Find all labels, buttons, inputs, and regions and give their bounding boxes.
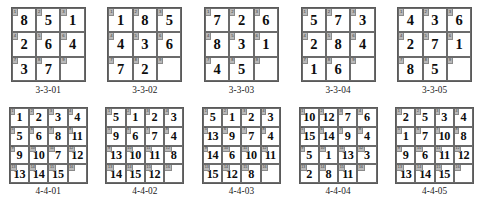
puzzle-tile[interactable]: 44: [108, 32, 132, 56]
puzzle-tile[interactable]: 15: [106, 108, 125, 127]
puzzle-tile[interactable]: 95: [300, 146, 319, 165]
puzzle-tile[interactable]: 61: [447, 32, 471, 56]
puzzle-cell-blank[interactable]: 16: [68, 164, 87, 183]
puzzle-tile[interactable]: 57: [423, 32, 447, 56]
puzzle-tile[interactable]: 148: [319, 164, 338, 183]
puzzle-tile[interactable]: 1110: [241, 146, 260, 165]
puzzle-tile[interactable]: 42: [302, 32, 326, 56]
puzzle-tile[interactable]: 85: [229, 57, 253, 81]
puzzle-tile[interactable]: 53: [133, 32, 157, 56]
puzzle-cell-blank[interactable]: 16: [454, 164, 473, 183]
puzzle-tile[interactable]: 84: [357, 127, 376, 146]
puzzle-tile[interactable]: 78: [398, 57, 422, 81]
puzzle-tile[interactable]: 51: [396, 127, 415, 146]
puzzle-tile[interactable]: 22: [29, 108, 48, 127]
puzzle-tile[interactable]: 110: [300, 108, 319, 127]
puzzle-tile[interactable]: 73: [12, 57, 36, 81]
puzzle-tile[interactable]: 74: [205, 57, 229, 81]
puzzle-tile[interactable]: 69: [222, 127, 241, 146]
puzzle-tile[interactable]: 515: [300, 127, 319, 146]
puzzle-tile[interactable]: 1412: [222, 164, 241, 183]
puzzle-tile[interactable]: 1511: [338, 164, 357, 183]
puzzle-tile[interactable]: 33: [48, 108, 67, 127]
puzzle-tile[interactable]: 1315: [203, 164, 222, 183]
puzzle-tile[interactable]: 79: [338, 127, 357, 146]
puzzle-tile[interactable]: 12: [396, 108, 415, 127]
puzzle-tile[interactable]: 35: [157, 8, 181, 32]
puzzle-tile[interactable]: 1212: [68, 146, 87, 165]
puzzle-tile[interactable]: 1313: [10, 164, 29, 183]
puzzle-tile[interactable]: 48: [205, 32, 229, 56]
puzzle-cell-blank[interactable]: 9: [157, 57, 181, 81]
puzzle-tile[interactable]: 86: [326, 57, 350, 81]
puzzle-cell-blank[interactable]: 9: [447, 57, 471, 81]
puzzle-tile[interactable]: 25: [36, 8, 60, 32]
puzzle-cell-blank[interactable]: 16: [261, 164, 280, 183]
puzzle-cell-blank[interactable]: 9: [60, 57, 84, 81]
puzzle-tile[interactable]: 106: [222, 146, 241, 165]
puzzle-tile[interactable]: 58: [326, 32, 350, 56]
puzzle-tile[interactable]: 43: [164, 108, 183, 127]
puzzle-cell-blank[interactable]: 9: [350, 57, 374, 81]
puzzle-tile[interactable]: 914: [203, 146, 222, 165]
puzzle-tile[interactable]: 32: [241, 108, 260, 127]
puzzle-tile[interactable]: 46: [357, 108, 376, 127]
puzzle-tile[interactable]: 28: [133, 8, 157, 32]
puzzle-tile[interactable]: 1515: [48, 164, 67, 183]
puzzle-tile[interactable]: 1415: [126, 164, 145, 183]
puzzle-tile[interactable]: 22: [229, 8, 253, 32]
puzzle-tile[interactable]: 44: [454, 108, 473, 127]
puzzle-tile[interactable]: 21: [222, 108, 241, 127]
puzzle-tile[interactable]: 212: [319, 108, 338, 127]
puzzle-tile[interactable]: 1212: [454, 146, 473, 165]
puzzle-tile[interactable]: 1211: [261, 146, 280, 165]
puzzle-cell-blank[interactable]: 9: [254, 57, 278, 81]
puzzle-tile[interactable]: 123: [357, 146, 376, 165]
puzzle-tile[interactable]: 128: [164, 146, 183, 165]
puzzle-tile[interactable]: 64: [350, 32, 374, 56]
puzzle-tile[interactable]: 1010: [29, 146, 48, 165]
puzzle-tile[interactable]: 101: [319, 146, 338, 165]
puzzle-tile[interactable]: 710: [435, 127, 454, 146]
puzzle-tile[interactable]: 23: [423, 8, 447, 32]
puzzle-tile[interactable]: 66: [157, 32, 181, 56]
puzzle-tile[interactable]: 117: [48, 146, 67, 165]
puzzle-tile[interactable]: 1010: [126, 146, 145, 165]
puzzle-tile[interactable]: 14: [398, 8, 422, 32]
puzzle-tile[interactable]: 85: [423, 57, 447, 81]
puzzle-tile[interactable]: 913: [106, 146, 125, 165]
puzzle-tile[interactable]: 1314: [106, 164, 125, 183]
puzzle-tile[interactable]: 64: [60, 32, 84, 56]
puzzle-tile[interactable]: 99: [396, 146, 415, 165]
puzzle-tile[interactable]: 56: [36, 32, 60, 56]
puzzle-tile[interactable]: 11: [108, 8, 132, 32]
puzzle-tile[interactable]: 614: [319, 127, 338, 146]
puzzle-tile[interactable]: 42: [398, 32, 422, 56]
puzzle-tile[interactable]: 1111: [435, 146, 454, 165]
puzzle-tile[interactable]: 25: [415, 108, 434, 127]
puzzle-tile[interactable]: 84: [164, 127, 183, 146]
puzzle-tile[interactable]: 132: [300, 164, 319, 183]
puzzle-tile[interactable]: 27: [326, 8, 350, 32]
puzzle-tile[interactable]: 32: [145, 108, 164, 127]
puzzle-tile[interactable]: 77: [145, 127, 164, 146]
puzzle-tile[interactable]: 42: [12, 32, 36, 56]
puzzle-tile[interactable]: 1113: [338, 146, 357, 165]
puzzle-cell-blank[interactable]: 16: [357, 164, 376, 183]
puzzle-tile[interactable]: 811: [68, 127, 87, 146]
puzzle-tile[interactable]: 87: [36, 57, 60, 81]
puzzle-tile[interactable]: 15: [302, 8, 326, 32]
puzzle-tile[interactable]: 77: [241, 127, 260, 146]
puzzle-tile[interactable]: 106: [415, 146, 434, 165]
puzzle-tile[interactable]: 11: [10, 108, 29, 127]
puzzle-tile[interactable]: 44: [68, 108, 87, 127]
puzzle-tile[interactable]: 21: [126, 108, 145, 127]
puzzle-tile[interactable]: 71: [302, 57, 326, 81]
puzzle-tile[interactable]: 59: [106, 127, 125, 146]
puzzle-tile[interactable]: 17: [205, 8, 229, 32]
puzzle-tile[interactable]: 15: [203, 108, 222, 127]
puzzle-tile[interactable]: 61: [254, 32, 278, 56]
puzzle-tile[interactable]: 67: [415, 127, 434, 146]
puzzle-tile[interactable]: 66: [29, 127, 48, 146]
puzzle-tile[interactable]: 1313: [396, 164, 415, 183]
